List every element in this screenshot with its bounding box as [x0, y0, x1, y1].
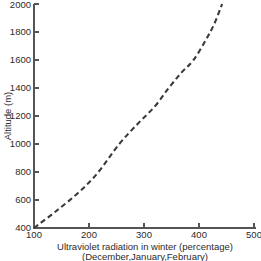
- y-axis-tick-labels: 400 600 800 1000 1200 1400 1600 1800 200…: [10, 0, 31, 233]
- y-tick-label: 1200: [10, 110, 31, 121]
- y-tick-label: 600: [15, 194, 31, 205]
- y-axis-ticks: [34, 4, 39, 228]
- data-curve-uv-altitude: [34, 4, 222, 228]
- x-tick-label: 300: [136, 229, 152, 240]
- y-tick-label: 1400: [10, 82, 31, 93]
- y-tick-label: 1800: [10, 26, 31, 37]
- y-tick-label: 2000: [10, 0, 31, 10]
- chart-figure: 400 600 800 1000 1200 1400 1600 1800 200…: [0, 0, 261, 261]
- x-axis-subtitle: (December,January,February): [82, 251, 208, 261]
- y-tick-label: 1600: [10, 54, 31, 65]
- x-tick-label: 400: [191, 229, 207, 240]
- x-tick-label: 200: [81, 229, 97, 240]
- x-tick-label: 100: [26, 229, 42, 240]
- chart-plot-area: 400 600 800 1000 1200 1400 1600 1800 200…: [0, 0, 261, 261]
- y-axis-title: Altitude (m): [2, 92, 13, 141]
- y-tick-label: 800: [15, 166, 31, 177]
- x-axis-tick-labels: 100 200 300 400 500: [26, 229, 261, 240]
- x-tick-label: 500: [246, 229, 261, 240]
- y-tick-label: 1000: [10, 138, 31, 149]
- x-axis-ticks: [34, 223, 254, 228]
